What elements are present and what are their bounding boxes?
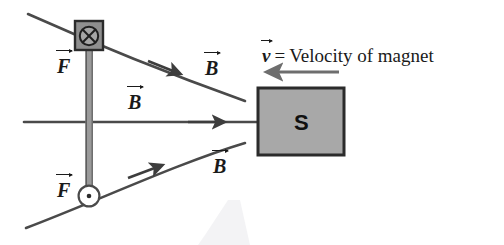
field-label-lower: B — [213, 156, 226, 176]
force-label-upper: F — [57, 56, 70, 76]
out-of-page-dot — [87, 194, 92, 199]
diagram-canvas — [0, 0, 504, 245]
conductor-rod — [86, 34, 94, 195]
physics-diagram: F F B B B v=Velocity of magnet S — [0, 0, 504, 245]
velocity-label: v=Velocity of magnet — [262, 46, 434, 65]
field-label-middle: B — [128, 92, 141, 112]
current-out-of-page-marker — [79, 186, 100, 207]
velocity-text: Velocity of magnet — [289, 46, 434, 65]
page-shadow-artifact — [198, 200, 250, 245]
velocity-equals: = — [274, 46, 285, 65]
magnet-pole-label: S — [294, 110, 309, 136]
velocity-symbol: v — [262, 46, 270, 65]
force-label-lower: F — [57, 180, 70, 200]
current-into-page-marker — [75, 21, 103, 50]
field-label-upper: B — [205, 58, 218, 78]
